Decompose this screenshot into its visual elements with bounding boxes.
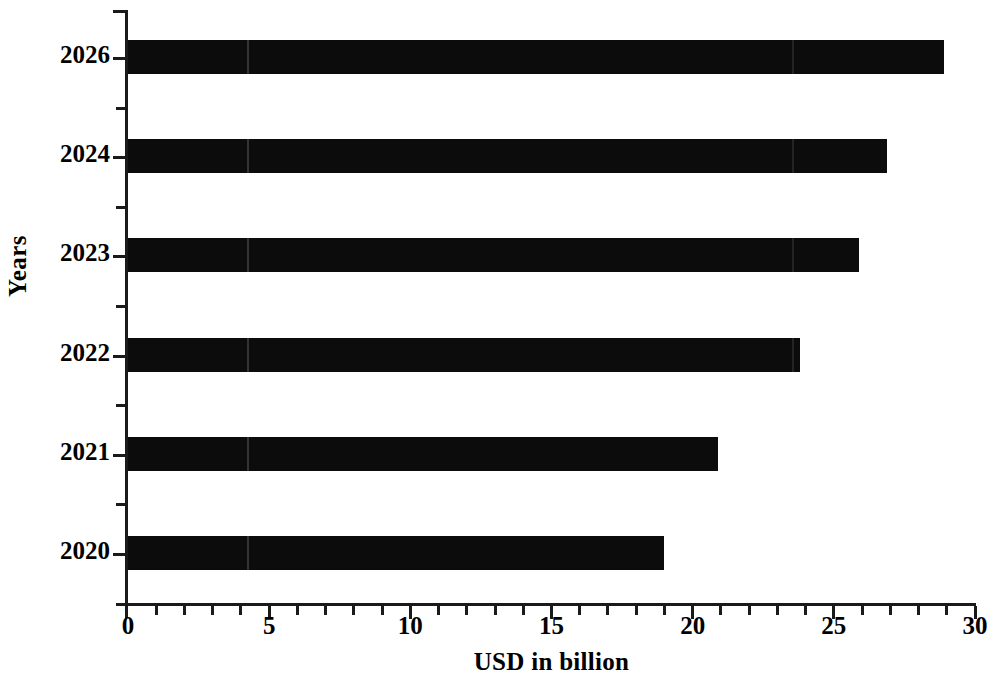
y-axis-minor-tick-2 [116, 305, 127, 308]
y-axis-label-2024: 2024 [0, 140, 110, 168]
x-axis-label-5: 5 [229, 612, 309, 640]
y-axis-minor-tick-0 [116, 107, 127, 110]
bar-2022 [128, 338, 800, 372]
y-axis-tick-2023 [113, 255, 127, 258]
x-axis-tick-8 [352, 606, 355, 615]
y-axis-tick-2026 [113, 57, 127, 60]
y-axis-tick-2021 [113, 454, 127, 457]
y-axis-tick-2022 [113, 355, 127, 358]
y-axis-tick-2020 [113, 553, 127, 556]
x-axis-label-30: 30 [935, 612, 993, 640]
x-axis-tick-13 [494, 606, 497, 615]
y-axis-tick-2024 [113, 156, 127, 159]
y-axis-label-2023: 2023 [0, 239, 110, 267]
bar-2026 [128, 40, 944, 74]
x-axis-tick-22 [748, 606, 751, 615]
x-axis-label-20: 20 [653, 612, 733, 640]
y-axis-minor-tick-3 [116, 404, 127, 407]
x-axis-tick-18 [635, 606, 638, 615]
x-axis-tick-2 [183, 606, 186, 615]
x-axis-tick-27 [889, 606, 892, 615]
bar-2023 [128, 238, 859, 272]
x-axis-title: USD in billion [128, 648, 975, 676]
x-axis-tick-28 [917, 606, 920, 615]
y-axis-minor-tick-4 [116, 503, 127, 506]
x-axis-tick-12 [465, 606, 468, 615]
y-axis-minor-tick-1 [116, 206, 127, 209]
y-axis-label-2026: 2026 [0, 41, 110, 69]
x-axis-tick-17 [606, 606, 609, 615]
x-axis-label-0: 0 [88, 612, 168, 640]
x-axis-tick-3 [211, 606, 214, 615]
y-axis-label-2020: 2020 [0, 537, 110, 565]
y-axis-label-2021: 2021 [0, 438, 110, 466]
bar-2021 [128, 437, 718, 471]
x-axis-tick-7 [324, 606, 327, 615]
x-axis-label-15: 15 [512, 612, 592, 640]
y-axis-tick-top [113, 10, 127, 13]
x-axis-label-10: 10 [370, 612, 450, 640]
x-axis-label-25: 25 [794, 612, 874, 640]
bar-chart: Years 202620242023202220212020 051015202… [0, 0, 993, 687]
bar-2024 [128, 139, 887, 173]
x-axis-tick-23 [776, 606, 779, 615]
bar-2020 [128, 536, 664, 570]
y-axis-label-2022: 2022 [0, 339, 110, 367]
y-axis-line [125, 10, 128, 606]
